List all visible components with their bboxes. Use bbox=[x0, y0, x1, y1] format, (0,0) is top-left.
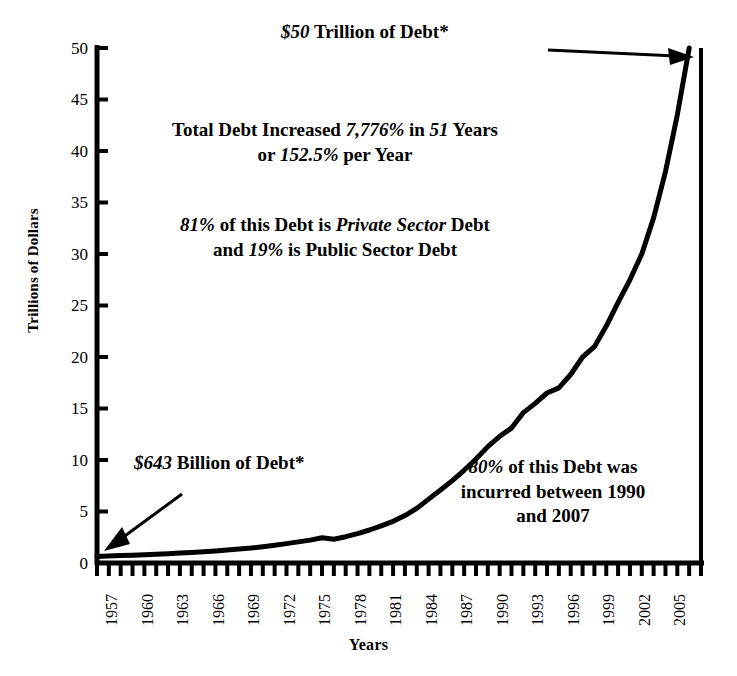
x-tick-label-1987: 1987 bbox=[459, 594, 475, 626]
x-tick-label-1999: 1999 bbox=[601, 594, 617, 626]
x-axis-title: Years bbox=[0, 636, 737, 654]
x-tick-label-1960: 1960 bbox=[140, 594, 156, 626]
annotation-recent-line2: incurred between 1990 bbox=[435, 480, 671, 505]
split-post: Debt bbox=[446, 214, 490, 235]
split-pct-public: 19% bbox=[248, 239, 283, 260]
total2-post: per Year bbox=[339, 144, 413, 165]
x-tick-label-1996: 1996 bbox=[566, 594, 582, 626]
total-mid: in bbox=[404, 119, 429, 140]
annotation-start-value: $643 bbox=[134, 452, 172, 473]
y-tick-label-0: 0 bbox=[42, 555, 88, 572]
x-tick-label-1984: 1984 bbox=[424, 594, 440, 626]
y-tick-label-15: 15 bbox=[42, 400, 88, 417]
split2-pre: and bbox=[213, 239, 248, 260]
x-tick-label-1975: 1975 bbox=[317, 594, 333, 626]
x-tick-label-2005: 2005 bbox=[672, 594, 688, 626]
total-pre: Total Debt Increased bbox=[172, 119, 346, 140]
split-pct-private: 81% bbox=[180, 214, 215, 235]
y-axis-title: Trillions of Dollars bbox=[25, 176, 42, 366]
total2-pct: 152.5% bbox=[280, 144, 339, 165]
x-tick-label-1957: 1957 bbox=[104, 594, 120, 626]
annotation-start-debt: $643 Billion of Debt* bbox=[134, 451, 304, 476]
split-mid: of this Debt is bbox=[215, 214, 336, 235]
x-tick-label-1978: 1978 bbox=[353, 594, 369, 626]
y-tick-label-50: 50 bbox=[42, 40, 88, 57]
annotation-total-line2: or 152.5% per Year bbox=[151, 143, 519, 168]
annotation-recent-share: 80% of this Debt was incurred between 19… bbox=[435, 455, 671, 529]
total-post: Years bbox=[449, 119, 498, 140]
peak-arrow bbox=[548, 48, 694, 65]
annotation-start-text: Billion of Debt* bbox=[172, 452, 304, 473]
x-tick-label-1993: 1993 bbox=[530, 594, 546, 626]
recent-pct: 80% bbox=[469, 456, 504, 477]
split-private-sector: Private Sector bbox=[336, 214, 446, 235]
x-tick-label-1990: 1990 bbox=[495, 594, 511, 626]
y-tick-label-10: 10 bbox=[42, 452, 88, 469]
x-tick-label-1963: 1963 bbox=[175, 594, 191, 626]
annotation-split-line2: and 19% is Public Sector Debt bbox=[151, 238, 519, 263]
annotation-peak-value: $50 bbox=[281, 21, 310, 42]
total-pct: 7,776% bbox=[346, 119, 405, 140]
y-tick-label-45: 45 bbox=[42, 91, 88, 108]
annotation-split-line1: 81% of this Debt is Private Sector Debt bbox=[151, 213, 519, 238]
annotation-recent-line3: and 2007 bbox=[435, 504, 671, 529]
annotation-peak-text: Trillion of Debt* bbox=[310, 21, 449, 42]
recent-post: of this Debt was bbox=[503, 456, 637, 477]
annotation-sector-split: 81% of this Debt is Private Sector Debt … bbox=[151, 213, 519, 262]
x-tick-label-1972: 1972 bbox=[282, 594, 298, 626]
start-arrow bbox=[104, 494, 182, 551]
annotation-total-increase: Total Debt Increased 7,776% in 51 Years … bbox=[151, 118, 519, 167]
chart-canvas: Trillions of Dollars 50 45 40 35 30 25 2… bbox=[0, 0, 737, 676]
y-tick-label-30: 30 bbox=[42, 246, 88, 263]
chart-svg bbox=[0, 0, 737, 676]
y-tick-label-35: 35 bbox=[42, 194, 88, 211]
split2-post: is Public Sector Debt bbox=[283, 239, 457, 260]
annotation-peak-debt: $50 Trillion of Debt* bbox=[281, 20, 449, 45]
x-tick-label-2002: 2002 bbox=[637, 594, 653, 626]
y-tick-label-20: 20 bbox=[42, 349, 88, 366]
x-tick-label-1969: 1969 bbox=[246, 594, 262, 626]
y-tick-label-25: 25 bbox=[42, 297, 88, 314]
total2-pre: or bbox=[258, 144, 280, 165]
x-tick-label-1981: 1981 bbox=[388, 594, 404, 626]
x-tick-label-1966: 1966 bbox=[211, 594, 227, 626]
annotation-total-line1: Total Debt Increased 7,776% in 51 Years bbox=[151, 118, 519, 143]
y-tick-label-40: 40 bbox=[42, 143, 88, 160]
y-tick-label-5: 5 bbox=[42, 503, 88, 520]
annotation-recent-line1: 80% of this Debt was bbox=[435, 455, 671, 480]
total-years: 51 bbox=[430, 119, 449, 140]
